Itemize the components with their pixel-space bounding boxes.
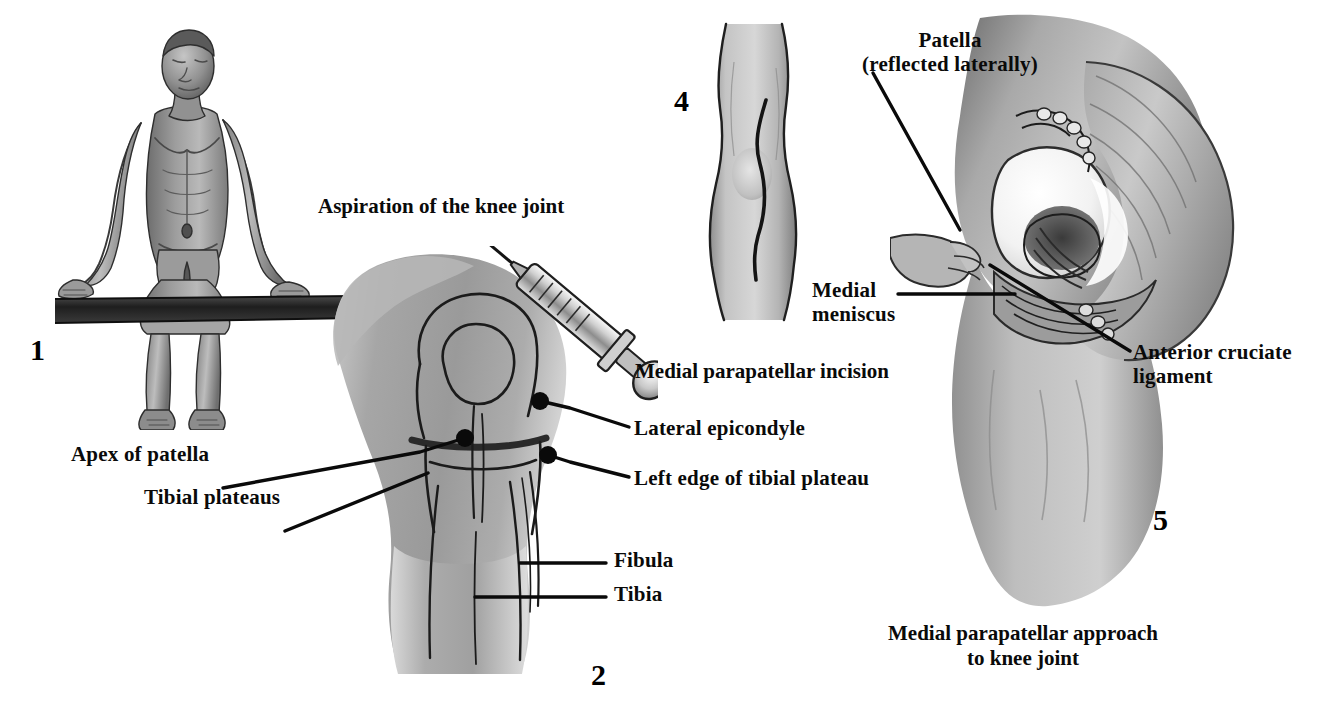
aspiration-caption-caption: Aspiration of the knee joint — [318, 194, 564, 219]
tibia-label: Tibia — [614, 582, 662, 606]
anterior-cruciate-ligament-line-0: Anterior cruciate — [1133, 340, 1292, 364]
medial-meniscus-label: Medialmeniscus — [812, 278, 895, 327]
approach-caption-line-0: Medial parapatellar approach — [888, 621, 1158, 646]
tibial-plateaus-line-0: Tibial plateaus — [144, 485, 280, 509]
figure-number-5: 5 — [1153, 503, 1168, 537]
anterior-cruciate-ligament-line-1: ligament — [1133, 364, 1292, 388]
anterior-cruciate-ligament-label: Anterior cruciateligament — [1133, 340, 1292, 389]
medial-meniscus-line-0: Medial — [812, 278, 895, 302]
apex-of-patella-line-0: Apex of patella — [71, 442, 209, 466]
tibia-line-0: Tibia — [614, 582, 662, 606]
aspiration-caption-line-0: Aspiration of the knee joint — [318, 194, 564, 219]
medial-meniscus-line-1: meniscus — [812, 302, 895, 326]
fibula-label: Fibula — [614, 548, 674, 572]
incision-caption-line-0: Medial parapatellar incision — [635, 359, 889, 384]
figure-number-1: 1 — [30, 333, 45, 367]
patella-reflected-label: Patella(reflected laterally) — [845, 28, 1055, 77]
apex-of-patella-label: Apex of patella — [71, 442, 209, 466]
left-edge-tibial-plateau-label: Left edge of tibial plateau — [634, 466, 869, 490]
patella-reflected-line-0: Patella — [845, 28, 1055, 52]
patella-reflected-line-1: (reflected laterally) — [845, 52, 1055, 76]
figure-4-artwork — [700, 22, 810, 322]
illustration-plate: Patella(reflected laterally)Apex of pate… — [0, 0, 1328, 725]
figure-number-4: 4 — [674, 84, 689, 118]
fibula-line-0: Fibula — [614, 548, 674, 572]
approach-caption-line-1: to knee joint — [888, 646, 1158, 671]
lateral-epicondyle-label: Lateral epicondyle — [634, 416, 805, 440]
incision-caption-caption: Medial parapatellar incision — [635, 359, 889, 384]
tibial-plateaus-label: Tibial plateaus — [144, 485, 280, 509]
left-edge-tibial-plateau-line-0: Left edge of tibial plateau — [634, 466, 869, 490]
figure-number-2: 2 — [591, 658, 606, 692]
figure-5-artwork — [890, 10, 1290, 610]
lateral-epicondyle-line-0: Lateral epicondyle — [634, 416, 805, 440]
approach-caption-caption: Medial parapatellar approachto knee join… — [888, 621, 1158, 671]
figure-2-artwork — [278, 246, 658, 676]
